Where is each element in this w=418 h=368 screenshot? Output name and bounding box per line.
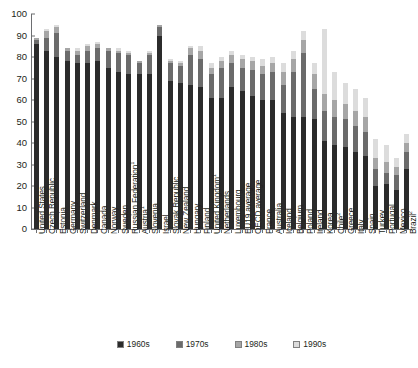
bar-slot [196,14,206,229]
bar-slot [299,14,309,229]
bar-slot [113,14,123,229]
x-axis-label: Ireland [317,210,325,234]
bar-slot [391,14,401,229]
bar-segment [281,72,286,85]
x-axis-label: Sweden [122,205,130,234]
x-label-slot: Finland [196,234,206,330]
bar-segment [281,63,286,72]
bar-segment [291,59,296,72]
table-row [332,72,337,229]
table-row [157,25,162,229]
bar-segment [353,126,358,152]
bar-segment [178,66,183,83]
legend-item: 1990s [293,340,326,349]
bar-slot [371,14,381,229]
x-axis-label: Italy [359,219,367,234]
x-axis-label: Denmark [91,201,99,234]
bar-segment [394,167,399,176]
legend-label: 1970s [186,340,209,349]
bar-segment [291,51,296,60]
y-tick-label: 100 [0,9,27,19]
y-tick-label: 50 [0,117,27,127]
x-label-slot: Mexico [391,234,401,330]
x-tick-mark [36,229,37,233]
x-label-slot: Netherlands [216,234,226,330]
bar-segment [332,72,337,100]
x-axis-label: Netherlands [225,191,233,234]
bar-slot [330,14,340,229]
bar-slot [62,14,72,229]
bar-segment [240,68,245,92]
x-axis-label: Australia [276,203,284,234]
bar-segment [281,85,286,113]
bar-segment [270,63,275,72]
x-axis-label: Spain [369,214,377,234]
x-label-slot: New Zealand [175,234,185,330]
legend-swatch-icon [235,341,242,348]
x-label-slot: Switzerland [72,234,82,330]
bar-segment [301,31,306,40]
bar-segment [240,59,245,68]
bar-segment [291,72,296,117]
x-label-slot: Ireland [309,234,319,330]
x-axis-label: Greece [348,208,356,234]
bar-segment [229,63,234,87]
bar-segment [332,117,337,145]
bar-slot [319,14,329,229]
x-axis-label: France [266,209,274,234]
bar-segment [301,53,306,118]
y-tick-label: 40 [0,138,27,148]
bar-segment [322,111,327,141]
x-label-slot: Czech Republic [41,234,51,330]
x-label-slot: Korea [319,234,329,330]
bar-slot [155,14,165,229]
x-label-slot: Luxembourg [227,234,237,330]
x-axis-label: United States [39,186,47,234]
legend-swatch-icon [117,341,124,348]
x-axis-label: Hungary [194,204,202,234]
x-label-slot: EU19 average [237,234,247,330]
x-label-slot: OECD average [247,234,257,330]
x-label-slot: Iceland [278,234,288,330]
bar-segment [363,98,368,117]
bar-segment [363,117,368,132]
legend-item: 1980s [235,340,268,349]
bar-segment [394,175,399,190]
x-label-slot: Austria1 [134,234,144,330]
x-label-slot: Norway [103,234,113,330]
x-axis-labels: United StatesCzech RepublicEstoniaGerman… [31,234,412,330]
bar-segment [270,72,275,100]
bar-segment [116,53,121,72]
x-label-slot: Australia [268,234,278,330]
bar-segment [198,59,203,87]
legend-label: 1960s [127,340,150,349]
table-row [198,46,203,229]
bar-slot [144,14,154,229]
bar-segment [157,36,162,230]
bar-segment [343,83,348,105]
x-axis-label: Slovak Republic [173,177,181,234]
x-axis-label: United Kingdom1 [214,174,222,234]
y-tick-label: 80 [0,52,27,62]
bar-segment [250,70,255,96]
bar-segment [373,139,378,158]
bar-segment [384,162,389,173]
x-axis-label: Portugal [389,204,397,234]
y-tick-label: 10 [0,203,27,213]
y-tick-label: 60 [0,95,27,105]
bar-segment [157,27,162,36]
table-row [322,29,327,229]
bar-segment [54,33,59,57]
bar-segment [373,169,378,186]
x-axis-label: Luxembourg [235,189,243,234]
bar-segment [106,51,111,68]
x-axis-label: Poland [307,209,315,234]
bar-segment [363,132,368,156]
x-axis-label: Russian Federation1 [132,162,140,234]
x-axis-label: Austria1 [142,206,150,234]
bar-segment [75,55,80,64]
table-row [312,63,317,229]
x-axis-label: Slovenia [153,203,161,234]
bar-segment [343,104,348,119]
